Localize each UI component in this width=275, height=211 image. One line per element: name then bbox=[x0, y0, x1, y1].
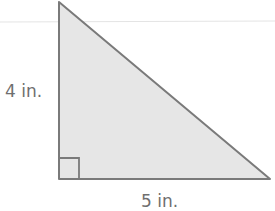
triangle-diagram: 4 in. 5 in. bbox=[0, 0, 275, 211]
right-triangle bbox=[59, 2, 270, 179]
base-label: 5 in. bbox=[141, 191, 178, 211]
guide-line bbox=[0, 21, 275, 22]
height-label: 4 in. bbox=[5, 81, 42, 101]
